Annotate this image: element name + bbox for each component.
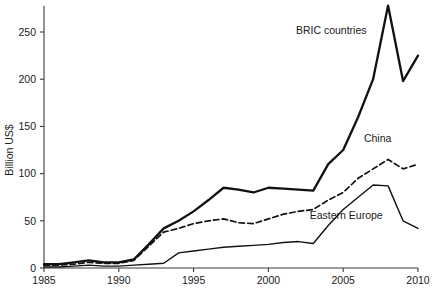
y-tick-label: 150	[18, 120, 36, 132]
x-tick-label: 2005	[332, 274, 356, 286]
y-tick-label: 50	[24, 215, 36, 227]
x-tick-label: 2000	[257, 274, 281, 286]
line-chart: 050100150200250198519901995200020052010 …	[0, 0, 432, 297]
x-tick-label: 1990	[107, 274, 131, 286]
chart-axes	[44, 6, 418, 268]
annotation-bric-countries: BRIC countries	[296, 24, 367, 36]
series-line-eastern-europe	[44, 185, 418, 267]
chart-series	[44, 6, 418, 267]
y-tick-label: 0	[30, 262, 36, 274]
series-line-bric	[44, 6, 418, 265]
annotation-eastern-europe: Eastern Europe	[310, 209, 383, 221]
y-tick-label: 250	[18, 26, 36, 38]
y-tick-label: 200	[18, 73, 36, 85]
y-axis-title: Billion US$	[3, 124, 15, 176]
y-axis-label: Billion US$	[3, 124, 15, 176]
x-tick-label: 2010	[406, 274, 430, 286]
y-tick-label: 100	[18, 167, 36, 179]
x-tick-label: 1995	[182, 274, 206, 286]
chart-container: 050100150200250198519901995200020052010 …	[0, 0, 432, 297]
annotation-china: China	[364, 132, 392, 144]
x-tick-label: 1985	[32, 274, 56, 286]
